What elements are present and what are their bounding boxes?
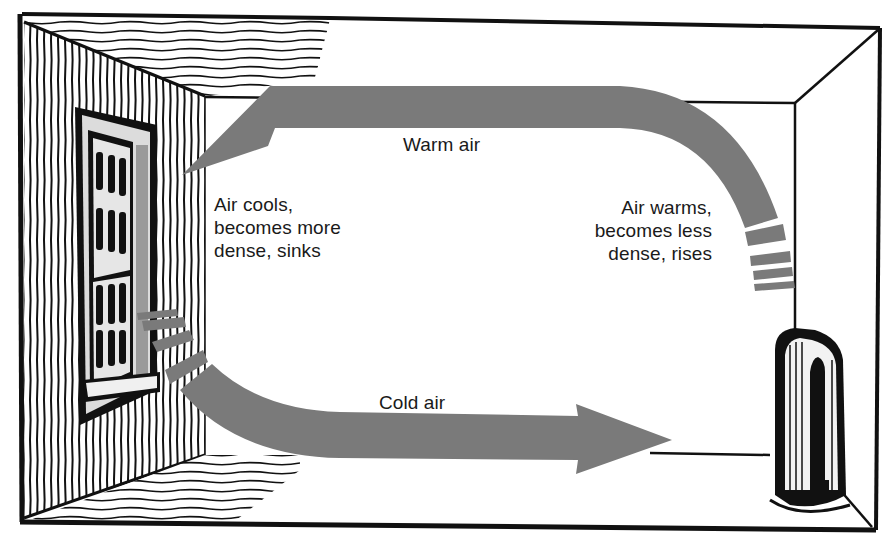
room-illustration <box>0 0 896 547</box>
warm-air-label: Warm air <box>403 133 480 156</box>
air-cools-label: Air cools, becomes more dense, sinks <box>214 193 341 262</box>
air-warms-label: Air warms, becomes less dense, rises <box>560 196 712 265</box>
cold-air-label: Cold air <box>379 391 445 414</box>
radiator <box>770 328 850 511</box>
convection-diagram: Warm air Air cools, becomes more dense, … <box>0 0 896 547</box>
window <box>75 107 160 425</box>
